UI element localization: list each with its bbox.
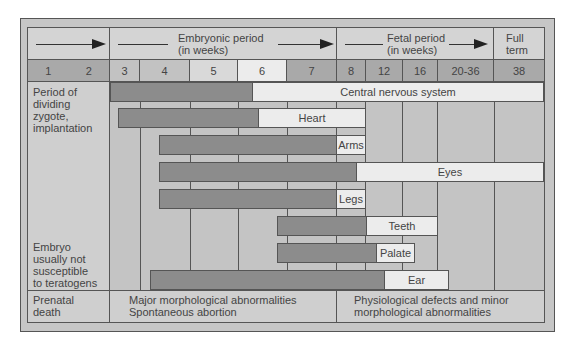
header-fetal-period: Fetal period (in weeks) bbox=[337, 28, 494, 60]
arrow-right-icon bbox=[474, 39, 488, 49]
prenatal-death-label: Prenatal death bbox=[33, 294, 74, 318]
arrow-line bbox=[36, 44, 98, 45]
sensitive-segment bbox=[278, 217, 366, 235]
bar-central-nervous-system: Central nervous system bbox=[110, 82, 544, 102]
arrow-line bbox=[118, 44, 168, 45]
bar-label: Arms bbox=[336, 136, 365, 154]
week-cell-38: 38 bbox=[494, 60, 544, 82]
bar-label: Palate bbox=[376, 244, 414, 262]
week-cell-8: 8 bbox=[337, 60, 366, 82]
sensitive-segment bbox=[119, 109, 258, 127]
header-embryonic-period: Embryonic period (in weeks) bbox=[110, 28, 337, 60]
week-cell-1-2: 1 2 bbox=[28, 60, 110, 82]
bar-label: Legs bbox=[336, 190, 365, 208]
week-cell-12: 12 bbox=[366, 60, 403, 82]
sensitive-segment bbox=[151, 271, 384, 289]
bar-label: Teeth bbox=[366, 217, 437, 235]
week-cell-4: 4 bbox=[140, 60, 190, 82]
header-left-cell bbox=[28, 28, 110, 60]
bar-legs: Legs bbox=[159, 189, 366, 209]
week-cell-5: 5 bbox=[190, 60, 238, 82]
week-cell-16: 16 bbox=[403, 60, 438, 82]
arrow-right-icon bbox=[320, 39, 334, 49]
grid-line-20-38 bbox=[494, 82, 495, 290]
footer-embryonic-effects-cell: Major morphological abnormalities Sponta… bbox=[110, 291, 337, 322]
arrow-line bbox=[449, 44, 477, 45]
bar-teeth: Teeth bbox=[277, 216, 438, 236]
arrow-right-icon bbox=[92, 39, 106, 49]
week-cell-7: 7 bbox=[287, 60, 337, 82]
bar-label: Eyes bbox=[356, 163, 543, 181]
footer-prenatal-death-cell: Prenatal death bbox=[28, 291, 110, 322]
bar-label: Ear bbox=[384, 271, 448, 289]
bar-ear: Ear bbox=[150, 270, 449, 290]
fetal-period-label: Fetal period (in weeks) bbox=[387, 32, 445, 56]
arrow-line bbox=[345, 44, 383, 45]
full-term-label: Full term bbox=[506, 32, 528, 56]
embryonic-period-label: Embryonic period (in weeks) bbox=[178, 32, 264, 56]
fetal-effects-label: Physiological defects and minor morpholo… bbox=[354, 294, 509, 318]
arrow-line bbox=[278, 44, 324, 45]
week-cell-3: 3 bbox=[110, 60, 140, 82]
bar-label: Central nervous system bbox=[252, 83, 543, 101]
week-cell-6: 6 bbox=[238, 60, 287, 82]
bar-eyes: Eyes bbox=[159, 162, 544, 182]
sensitive-segment bbox=[160, 136, 336, 154]
bar-palate: Palate bbox=[277, 243, 415, 263]
bar-label: Heart bbox=[258, 109, 365, 127]
sensitive-segment bbox=[160, 163, 356, 181]
sensitive-segment bbox=[160, 190, 336, 208]
week-cell-20-36: 20-36 bbox=[438, 60, 494, 82]
footer-fetal-effects-cell: Physiological defects and minor morpholo… bbox=[337, 291, 544, 322]
sensitive-segment bbox=[278, 244, 376, 262]
not-susceptible-label: Embryo usually not susceptible to terato… bbox=[33, 241, 97, 289]
grid-line-16-20 bbox=[437, 82, 438, 290]
embryonic-effects-label: Major morphological abnormalities Sponta… bbox=[129, 294, 297, 318]
bar-arms: Arms bbox=[159, 135, 366, 155]
sensitive-segment bbox=[111, 83, 252, 101]
header-full-term: Full term bbox=[494, 28, 544, 60]
zygote-period-label: Period of dividing zygote, implantation bbox=[33, 86, 92, 134]
bar-heart: Heart bbox=[118, 108, 366, 128]
